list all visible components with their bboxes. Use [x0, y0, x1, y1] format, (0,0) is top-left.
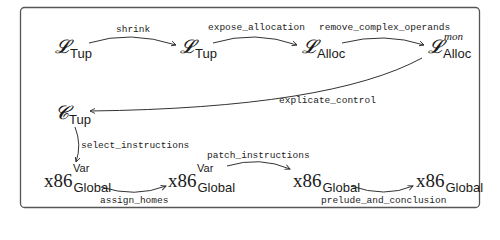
node-base: 𝓒: [55, 101, 68, 123]
node-x86-global-1: x86Global: [293, 171, 360, 190]
arrow-prelude-and-conclusion: [351, 186, 413, 192]
label-assign-homes: assign_homes: [100, 195, 168, 206]
node-superscript: Var: [197, 163, 213, 174]
node-subscript: Alloc: [443, 46, 471, 61]
node-subscript: Alloc: [317, 46, 345, 61]
node-superscript: Var: [73, 163, 89, 174]
node-subscript: Tup: [70, 46, 92, 61]
node-base: 𝓛: [55, 35, 69, 57]
node-l-alloc-mon: 𝓛monAlloc: [428, 37, 471, 56]
node-subscript: Global: [74, 180, 112, 195]
node-l-alloc: 𝓛Alloc: [302, 37, 345, 56]
arrow-patch-instructions: [227, 162, 290, 169]
node-x86-global-2: x86Global: [416, 171, 483, 190]
node-base: x86: [416, 170, 445, 191]
node-subscript: Global: [323, 180, 361, 195]
node-x86-var-global-1: x86VarGlobal: [44, 171, 111, 190]
arrow-select-instructions: [75, 127, 79, 162]
node-subscript: Tup: [69, 112, 91, 127]
label-explicate-control: explicate_control: [279, 95, 376, 106]
node-c-tup: 𝓒Tup: [55, 103, 91, 122]
node-l-tup-2: 𝓛Tup: [180, 37, 217, 56]
node-x86-var-global-2: x86VarGlobal: [168, 171, 235, 190]
node-subscript: Global: [446, 180, 484, 195]
arrow-remove-complex-operands: [342, 38, 424, 45]
node-base: 𝓛: [428, 35, 442, 57]
arrow-expose-allocation: [213, 37, 297, 45]
label-select-instructions: select_instructions: [81, 140, 189, 151]
node-base: 𝓛: [180, 35, 194, 57]
label-expose-allocation: expose_allocation: [208, 22, 305, 33]
node-subscript: Tup: [195, 46, 217, 61]
node-subscript: Global: [198, 180, 236, 195]
node-l-tup-1: 𝓛Tup: [55, 37, 92, 56]
label-patch-instructions: patch_instructions: [207, 150, 310, 161]
node-base: 𝓛: [302, 35, 316, 57]
label-remove-complex-operands: remove_complex_operands: [319, 22, 450, 33]
node-base: x86: [44, 170, 73, 191]
label-prelude-and-conclusion: prelude_and_conclusion: [321, 195, 446, 206]
label-shrink: shrink: [116, 24, 150, 35]
node-base: x86: [168, 170, 197, 191]
node-base: x86: [293, 170, 322, 191]
arrow-shrink: [89, 37, 176, 45]
